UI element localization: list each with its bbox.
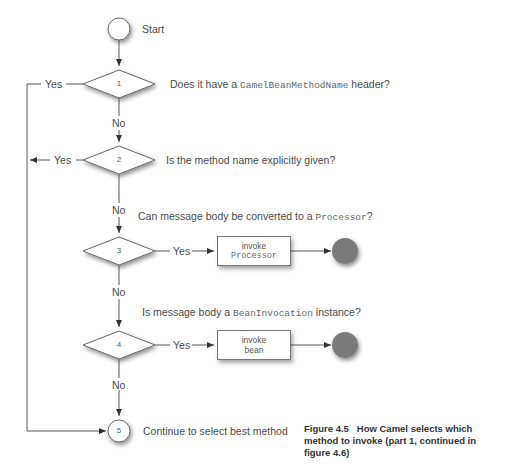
node-number-4: 4 [109,341,129,349]
no-label-2: No [112,205,125,216]
start-node [108,18,130,40]
node-5-label: Continue to select best method [143,426,288,437]
flowchart-graphics [0,0,507,469]
yes-label-3: Yes [173,246,190,257]
no-label-1: No [112,118,125,129]
no-label-3: No [112,287,125,298]
question-2: Is the method name explicitly given? [166,155,335,166]
end-node-processor [332,238,358,264]
node-number-5: 5 [109,427,129,435]
question-1-suffix: header? [348,78,389,90]
node-number-1: 1 [109,80,129,88]
action-invoke-bean: invoke bean [217,330,291,360]
question-4-code: BeanInvocation [233,308,313,319]
action-1-line2: Processor [218,251,290,261]
question-4-text: Is message body a [142,306,233,318]
question-4-suffix: instance? [313,306,361,318]
yes-label-2: Yes [54,155,71,166]
question-1-code: CamelBeanMethodName [240,80,348,91]
question-3-text: Can message body be converted to a [138,210,315,222]
question-3: Can message body be converted to a Proce… [138,211,373,223]
start-label: Start [142,24,164,35]
end-node-bean [332,332,358,358]
question-4: Is message body a BeanInvocation instanc… [142,307,361,319]
action-2-line1: invoke [218,335,290,345]
question-3-suffix: ? [367,210,373,222]
node-number-3: 3 [109,247,129,255]
action-1-line1: invoke [218,241,290,251]
action-invoke-processor: invoke Processor [217,236,291,266]
action-2-line2: bean [218,345,290,355]
yes-label-4: Yes [173,340,190,351]
question-1-text: Does it have a [170,78,240,90]
figure-caption: Figure 4.5 How Camel selects which metho… [304,423,484,459]
no-label-4: No [112,380,125,391]
question-3-code: Processor [315,212,366,223]
figure-number: Figure 4.5 [304,423,349,434]
yes-label-1: Yes [45,79,62,90]
node-number-2: 2 [109,156,129,164]
question-1: Does it have a CamelBeanMethodName heade… [170,79,390,91]
